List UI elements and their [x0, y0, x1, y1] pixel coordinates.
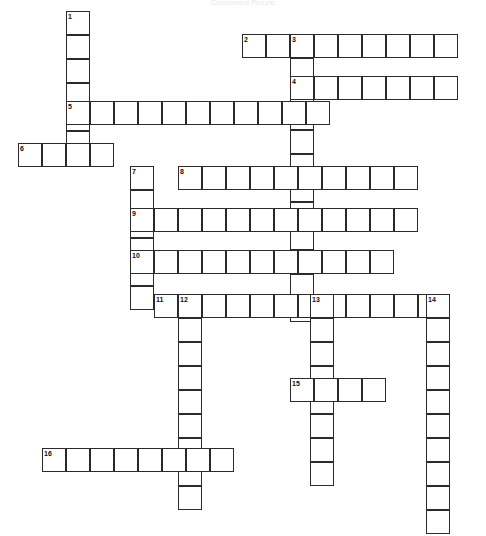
crossword-cell[interactable]	[290, 34, 314, 58]
crossword-cell[interactable]	[178, 366, 202, 390]
crossword-cell[interactable]	[338, 34, 362, 58]
crossword-cell[interactable]	[282, 101, 306, 125]
crossword-cell[interactable]	[226, 294, 250, 318]
crossword-cell[interactable]	[202, 166, 226, 190]
crossword-cell[interactable]	[202, 250, 226, 274]
crossword-cell[interactable]	[66, 59, 90, 83]
crossword-cell[interactable]	[434, 76, 458, 100]
crossword-cell[interactable]	[298, 250, 322, 274]
crossword-cell[interactable]	[290, 130, 314, 154]
crossword-cell[interactable]	[290, 378, 314, 402]
crossword-cell[interactable]	[250, 250, 274, 274]
crossword-cell[interactable]	[394, 208, 418, 232]
crossword-cell[interactable]	[226, 166, 250, 190]
crossword-cell[interactable]	[338, 378, 362, 402]
crossword-cell[interactable]	[66, 448, 90, 472]
crossword-cell[interactable]	[202, 208, 226, 232]
crossword-cell[interactable]	[346, 250, 370, 274]
crossword-cell[interactable]	[42, 448, 66, 472]
crossword-cell[interactable]	[66, 11, 90, 35]
crossword-cell[interactable]	[434, 34, 458, 58]
crossword-cell[interactable]	[154, 208, 178, 232]
crossword-cell[interactable]	[310, 414, 334, 438]
crossword-cell[interactable]	[178, 390, 202, 414]
crossword-cell[interactable]	[298, 166, 322, 190]
crossword-cell[interactable]	[178, 486, 202, 510]
crossword-cell[interactable]	[310, 438, 334, 462]
crossword-cell[interactable]	[426, 294, 450, 318]
crossword-cell[interactable]	[410, 34, 434, 58]
crossword-cell[interactable]	[370, 294, 394, 318]
crossword-cell[interactable]	[426, 390, 450, 414]
crossword-cell[interactable]	[346, 166, 370, 190]
crossword-cell[interactable]	[202, 294, 226, 318]
crossword-cell[interactable]	[90, 143, 114, 167]
crossword-cell[interactable]	[178, 208, 202, 232]
crossword-cell[interactable]	[130, 286, 154, 310]
crossword-cell[interactable]	[154, 294, 178, 318]
crossword-cell[interactable]	[138, 101, 162, 125]
crossword-cell[interactable]	[346, 208, 370, 232]
crossword-cell[interactable]	[178, 294, 202, 318]
crossword-cell[interactable]	[66, 101, 90, 125]
crossword-cell[interactable]	[250, 208, 274, 232]
crossword-cell[interactable]	[322, 166, 346, 190]
crossword-cell[interactable]	[162, 101, 186, 125]
crossword-cell[interactable]	[426, 318, 450, 342]
crossword-cell[interactable]	[310, 294, 334, 318]
crossword-cell[interactable]	[426, 414, 450, 438]
crossword-cell[interactable]	[178, 342, 202, 366]
crossword-cell[interactable]	[210, 101, 234, 125]
crossword-cell[interactable]	[178, 414, 202, 438]
crossword-cell[interactable]	[290, 76, 314, 100]
crossword-cell[interactable]	[310, 318, 334, 342]
crossword-cell[interactable]	[426, 510, 450, 534]
crossword-cell[interactable]	[394, 166, 418, 190]
crossword-cell[interactable]	[314, 378, 338, 402]
crossword-cell[interactable]	[386, 76, 410, 100]
crossword-cell[interactable]	[298, 208, 322, 232]
crossword-cell[interactable]	[314, 76, 338, 100]
crossword-cell[interactable]	[90, 448, 114, 472]
crossword-cell[interactable]	[266, 34, 290, 58]
crossword-cell[interactable]	[210, 448, 234, 472]
crossword-cell[interactable]	[410, 76, 434, 100]
crossword-cell[interactable]	[370, 250, 394, 274]
crossword-cell[interactable]	[226, 208, 250, 232]
crossword-cell[interactable]	[90, 101, 114, 125]
crossword-cell[interactable]	[322, 208, 346, 232]
crossword-cell[interactable]	[426, 366, 450, 390]
crossword-cell[interactable]	[138, 448, 162, 472]
crossword-cell[interactable]	[18, 143, 42, 167]
crossword-cell[interactable]	[130, 250, 154, 274]
crossword-cell[interactable]	[242, 34, 266, 58]
crossword-cell[interactable]	[234, 101, 258, 125]
crossword-cell[interactable]	[306, 101, 330, 125]
crossword-cell[interactable]	[426, 342, 450, 366]
crossword-cell[interactable]	[370, 166, 394, 190]
crossword-cell[interactable]	[274, 294, 298, 318]
crossword-cell[interactable]	[338, 76, 362, 100]
crossword-cell[interactable]	[250, 166, 274, 190]
crossword-cell[interactable]	[178, 250, 202, 274]
crossword-cell[interactable]	[310, 462, 334, 486]
crossword-cell[interactable]	[386, 34, 410, 58]
crossword-cell[interactable]	[162, 448, 186, 472]
crossword-cell[interactable]	[66, 35, 90, 59]
crossword-cell[interactable]	[426, 462, 450, 486]
crossword-cell[interactable]	[346, 294, 370, 318]
crossword-cell[interactable]	[394, 294, 418, 318]
crossword-cell[interactable]	[250, 294, 274, 318]
crossword-cell[interactable]	[178, 166, 202, 190]
crossword-cell[interactable]	[322, 250, 346, 274]
crossword-cell[interactable]	[154, 250, 178, 274]
crossword-cell[interactable]	[114, 101, 138, 125]
crossword-cell[interactable]	[186, 101, 210, 125]
crossword-cell[interactable]	[362, 76, 386, 100]
crossword-cell[interactable]	[42, 143, 66, 167]
crossword-cell[interactable]	[274, 250, 298, 274]
crossword-cell[interactable]	[274, 208, 298, 232]
crossword-cell[interactable]	[370, 208, 394, 232]
crossword-cell[interactable]	[314, 34, 338, 58]
crossword-cell[interactable]	[66, 143, 90, 167]
